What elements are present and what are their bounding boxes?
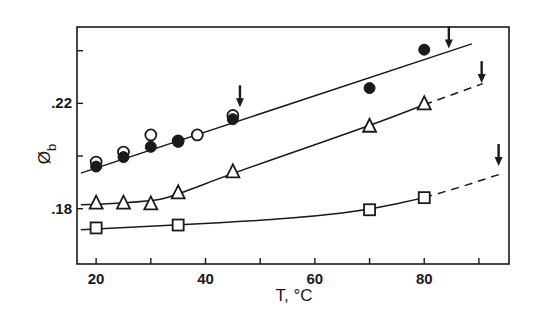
y-axis-label: Øb	[35, 144, 59, 164]
filled-circle-marker	[227, 114, 238, 125]
filled-circle-marker	[145, 141, 156, 152]
x-tick-label: 80	[416, 270, 433, 287]
fit-line	[81, 105, 424, 205]
filled-circle-marker	[173, 136, 184, 147]
y-tick-label: .18	[51, 200, 72, 217]
square-marker	[364, 204, 375, 215]
square-marker	[419, 192, 430, 203]
plot-frame	[77, 27, 509, 264]
chart-canvas: 20406080 .18.22 T, °C Øb	[0, 0, 538, 318]
filled-circle-marker	[419, 44, 430, 55]
y-axis-label-sub: b	[44, 144, 59, 151]
y-axis-ticks: .18.22	[51, 51, 83, 217]
x-axis-ticks: 20406080	[88, 258, 479, 287]
plot-border	[77, 27, 509, 264]
triangle-marker	[226, 164, 239, 177]
square-marker	[173, 220, 184, 231]
fit-line	[424, 174, 499, 197]
triangle-marker	[144, 196, 157, 209]
triangle-marker	[90, 196, 103, 209]
arrow-down-icon	[495, 144, 503, 166]
filled-circle-marker	[91, 161, 102, 172]
arrow-down-icon	[478, 61, 486, 83]
x-tick-label: 20	[88, 270, 105, 287]
open-circle-marker	[145, 129, 156, 140]
fit-lines	[81, 44, 499, 230]
y-tick-label: .22	[51, 94, 72, 111]
open-circle-marker	[192, 129, 203, 140]
data-markers	[90, 44, 431, 233]
filled-circle-marker	[364, 83, 375, 94]
filled-circle-marker	[118, 152, 129, 163]
square-marker	[91, 222, 102, 233]
x-tick-label: 40	[197, 270, 214, 287]
x-tick-label: 60	[307, 270, 324, 287]
arrow-down-icon	[445, 27, 453, 49]
arrow-down-icon	[236, 85, 244, 107]
fit-line	[424, 84, 483, 105]
svg-text:Øb: Øb	[35, 144, 59, 164]
x-axis-label: T, °C	[275, 286, 312, 305]
triangle-marker	[363, 119, 376, 132]
y-axis-label-main: Ø	[35, 151, 54, 164]
